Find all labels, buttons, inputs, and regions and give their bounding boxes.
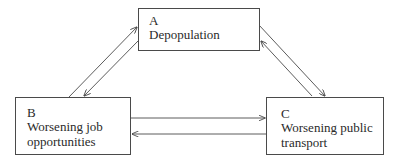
node-b-letter: B (27, 105, 36, 120)
node-c-label: Worsening public transport (281, 120, 373, 150)
arrow-a-to-b (84, 41, 138, 96)
node-a-depopulation: A Depopulation (138, 8, 260, 51)
node-b-label: Worsening job opportunities (27, 119, 103, 149)
arrow-c-to-a (261, 41, 312, 96)
arrow-a-to-c (259, 25, 325, 96)
node-c-letter: C (281, 106, 290, 121)
node-b-worsening-job-opportunities: B Worsening job opportunities (15, 97, 131, 155)
node-a-label: Depopulation (149, 27, 220, 42)
arrow-b-to-a (69, 27, 137, 97)
node-a-letter: A (149, 13, 158, 28)
node-c-worsening-public-transport: C Worsening public transport (266, 97, 384, 155)
